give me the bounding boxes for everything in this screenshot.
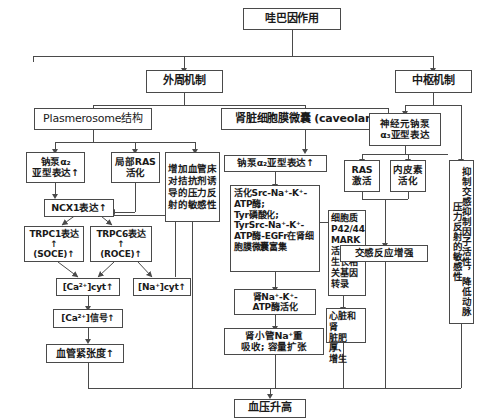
connector-bus-bottom xyxy=(88,388,461,389)
node-vascular-bed-sensitivity[interactable]: 增加血管床对拮抗剂诱导的压力反射的敏感性 xyxy=(165,152,220,222)
node-sympathetic-inhibitor[interactable]: 抑制交感抑制因子活性，降低动脉压力反射的敏感性 xyxy=(449,160,474,324)
node-root[interactable]: 哇巴因作用 xyxy=(243,8,341,30)
connector xyxy=(408,192,409,199)
node-ncx1[interactable]: NCX1表达↑ xyxy=(44,199,114,217)
connector xyxy=(88,363,89,388)
connector xyxy=(275,355,276,388)
node-renal-caveolae[interactable]: 肾脏细胞膜微囊 (caveolar) xyxy=(221,108,389,130)
connector xyxy=(433,93,434,105)
node-trpc6[interactable]: TRPC6表达↑ (ROCE)↑ xyxy=(90,226,152,262)
connector xyxy=(135,183,136,212)
node-ca-signal[interactable]: [Ca²⁺]信号↑ xyxy=(53,309,123,328)
connector xyxy=(175,215,176,277)
connector xyxy=(33,56,34,62)
connector xyxy=(292,30,293,56)
node-central-mechanism[interactable]: 中枢机制 xyxy=(395,70,472,93)
connector xyxy=(461,324,462,388)
arrow xyxy=(302,149,308,154)
node-ras-activation[interactable]: RAS 激活 xyxy=(344,160,380,192)
connector xyxy=(385,262,386,388)
connector-bus-plasmerosome xyxy=(55,142,195,143)
node-na-pump-a2[interactable]: 钠泵α₂ 亚型表达↑ xyxy=(26,152,85,183)
node-peripheral-mechanism[interactable]: 外周机制 xyxy=(146,70,223,93)
connector-bus-central xyxy=(405,105,461,106)
node-neuron-na-pump[interactable]: 神经元钠泵 α₃亚型表达 xyxy=(369,113,441,146)
connector xyxy=(114,212,135,213)
node-renal-atpase[interactable]: 肾Na⁺-K⁺- ATP酶活化 xyxy=(234,289,316,315)
connector xyxy=(93,130,94,142)
connector xyxy=(385,199,386,244)
flowchart-canvas: 哇巴因作用 外周机制 中枢机制 Plasmerosome结构 肾脏细胞膜微囊 (… xyxy=(0,0,487,420)
connector xyxy=(305,130,306,150)
connector xyxy=(275,272,276,288)
connector xyxy=(405,146,406,154)
node-src-cascade[interactable]: 活化Src-Na⁺-K⁺-ATP酶; Tyr磷酸化; TyrSrc-Na⁺-K⁺… xyxy=(230,185,320,272)
node-local-ras[interactable]: 局部RAS 活化 xyxy=(111,152,160,183)
node-endothelin-activation[interactable]: 内皮素 活化 xyxy=(390,160,426,192)
node-cardiac-renal-hypertrophy[interactable]: 心脏和肾 脏肥厚、 增生 xyxy=(326,308,366,343)
node-vascular-tone[interactable]: 血管紧张度↑ xyxy=(46,344,124,363)
connector xyxy=(184,93,185,105)
node-renal-tubule-na[interactable]: 肾小管Na⁺重 吸收; 容量扩张 xyxy=(224,328,324,355)
connector xyxy=(461,105,462,160)
node-na-pump-a2-caveolar[interactable]: 钠泵α₂亚型表达↑ xyxy=(224,155,327,172)
connector xyxy=(362,192,363,199)
connector-bus-top xyxy=(33,56,433,57)
node-trpc1[interactable]: TRPC1表达↑ (SOCE)↑ xyxy=(24,226,84,262)
node-ca-cyt[interactable]: [Ca²⁺]cyt↑ xyxy=(56,278,120,296)
node-na-cyt[interactable]: [Na⁺]cyt↑ xyxy=(133,278,191,296)
node-sympathetic-response[interactable]: 交感反应增强 xyxy=(340,245,428,262)
connector-bus-neuron xyxy=(362,154,448,155)
connector-bus-peripheral xyxy=(93,105,305,106)
node-plasmerosome[interactable]: Plasmerosome结构 xyxy=(34,108,152,130)
node-blood-pressure[interactable]: 血压升高 xyxy=(234,399,306,418)
